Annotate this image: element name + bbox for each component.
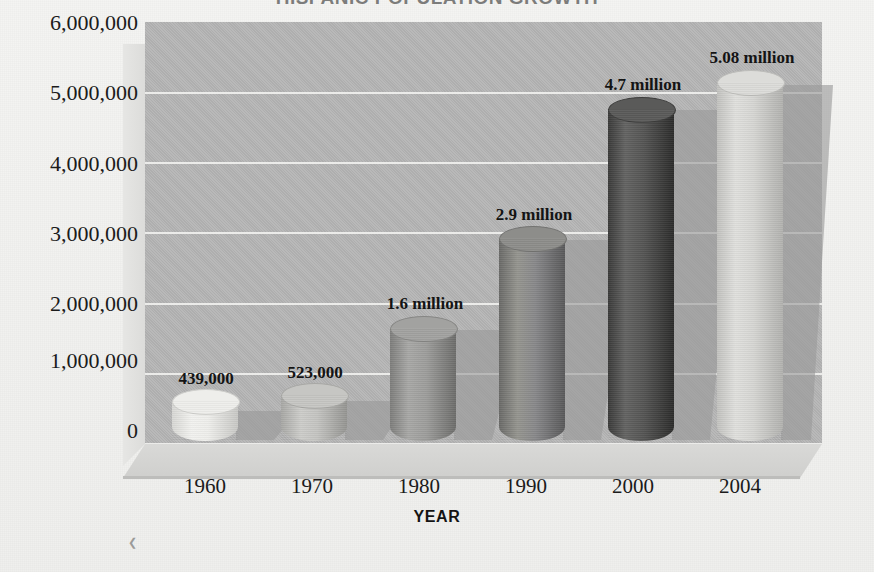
bar-body-2000 xyxy=(608,109,674,441)
bar-top-2000 xyxy=(608,97,676,123)
data-label-2004: 5.08 million xyxy=(692,48,812,68)
data-label-1970: 523,000 xyxy=(269,363,361,383)
bar-shadow-2004 xyxy=(781,85,833,440)
bar-body-1980 xyxy=(390,328,456,441)
x-tick-1990: 1990 xyxy=(481,474,571,499)
y-tick-0: 0 xyxy=(8,418,138,444)
bar-1980[interactable] xyxy=(390,328,456,441)
bar-1960[interactable] xyxy=(172,401,238,441)
y-tick-2000000: 2,000,000 xyxy=(8,291,138,317)
data-label-1960: 439,000 xyxy=(160,369,252,389)
bar-top-1980 xyxy=(390,316,458,342)
x-tick-1970: 1970 xyxy=(267,474,357,499)
bar-body-2004 xyxy=(717,82,783,441)
bar-top-1990 xyxy=(499,226,567,252)
bar-top-1970 xyxy=(281,383,349,409)
bar-2004[interactable] xyxy=(717,82,783,441)
data-label-2000: 4.7 million xyxy=(592,75,694,95)
paper-speck: ❮ xyxy=(128,536,135,545)
x-tick-2000: 2000 xyxy=(588,474,678,499)
y-tick-6000000: 6,000,000 xyxy=(8,10,138,36)
bar-1990[interactable] xyxy=(499,238,565,441)
chart-plot-area: 439,000 523,000 1.6 million 2.9 million … xyxy=(0,0,874,572)
x-axis-title: YEAR xyxy=(0,508,874,526)
x-tick-1980: 1980 xyxy=(374,474,464,499)
data-label-1990: 2.9 million xyxy=(483,205,585,225)
bar-body-1990 xyxy=(499,238,565,441)
plot-floor xyxy=(123,444,822,478)
bar-2000[interactable] xyxy=(608,109,674,441)
y-tick-1000000: 1,000,000 xyxy=(8,348,138,374)
bar-1970[interactable] xyxy=(281,395,347,441)
y-tick-3000000: 3,000,000 xyxy=(8,221,138,247)
x-tick-1960: 1960 xyxy=(160,474,250,499)
bar-top-1960 xyxy=(172,389,240,415)
bar-top-2004 xyxy=(717,70,785,96)
x-axis: 1960 1970 1980 1990 2000 2004 xyxy=(0,474,874,508)
x-tick-2004: 2004 xyxy=(695,474,785,499)
y-tick-4000000: 4,000,000 xyxy=(8,151,138,177)
data-label-1980: 1.6 million xyxy=(374,294,476,314)
y-tick-5000000: 5,000,000 xyxy=(8,80,138,106)
